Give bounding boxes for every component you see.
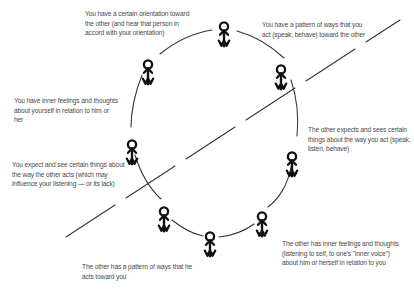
caption-your-pattern-of-ways: You have a pattern of ways that you act … [262, 20, 370, 39]
diagram-canvas: You have a certain orientation toward th… [0, 0, 414, 298]
connector-arcs [131, 30, 298, 237]
figure-upper-right [276, 65, 286, 89]
caption-you-expect-and-see: You expect and see certain things about … [12, 160, 128, 189]
caption-other-expects-and-sees: The other expects and sees certain thing… [308, 125, 412, 154]
caption-your-orientation: You have a certain orientation toward th… [85, 9, 197, 38]
figure-right [287, 152, 297, 176]
caption-other-inner-feelings: The other has inner feelings and thought… [282, 239, 406, 268]
caption-your-inner-feelings: You have inner feelings and thoughts abo… [14, 96, 118, 125]
figure-left [127, 140, 137, 164]
figure-lower-left [159, 207, 169, 231]
figure-upper-left [143, 60, 153, 84]
caption-other-pattern-of-ways: The other has a pattern of ways that he … [82, 262, 200, 281]
figure-bottom [205, 232, 215, 256]
figure-top [219, 22, 229, 46]
figure-lower-right [257, 212, 267, 236]
